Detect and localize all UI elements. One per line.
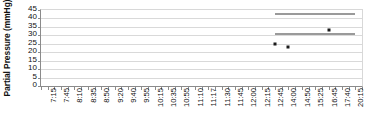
- x-axis-tick-label: 10:15: [157, 88, 165, 107]
- x-axis-tick-label: 11:17: [210, 88, 218, 106]
- x-axis-tick-label: 7:45: [63, 88, 71, 103]
- x-axis-tick-label: 11:45: [237, 88, 245, 106]
- x-axis-tick-label: 11:30: [224, 88, 232, 106]
- x-axis-tick-label: 11:10: [197, 88, 205, 106]
- x-axis-tick-label: 10:55: [183, 88, 191, 107]
- x-axis-tick-label: 8:35: [90, 88, 98, 103]
- gridline: [41, 18, 362, 19]
- y-axis-title-text: Partial Pressure (mmHg): [2, 0, 12, 96]
- gridline: [41, 78, 362, 79]
- x-axis-tick-labels: 7:157:458:108:358:509:209:409:5510:1510:…: [40, 88, 361, 135]
- gridline: [41, 44, 362, 45]
- y-axis-tick-mark: [38, 78, 41, 79]
- x-axis-tick-label: 9:55: [143, 88, 151, 103]
- x-axis-tick-label: 9:20: [117, 88, 125, 103]
- y-axis-tick-mark: [38, 18, 41, 19]
- x-axis-tick-label: 14:00: [290, 88, 298, 107]
- y-axis-tick-mark: [38, 69, 41, 70]
- y-axis-tick-mark: [38, 44, 41, 45]
- data-point: [274, 42, 277, 45]
- x-axis-tick-label: 14:50: [304, 88, 312, 107]
- x-axis-tick-label: 10:35: [170, 88, 178, 107]
- x-axis-tick-label: 8:10: [76, 88, 84, 103]
- plot-area: [40, 9, 363, 88]
- gridline: [41, 52, 362, 53]
- data-point: [327, 28, 330, 31]
- x-axis-tick-label: 16:45: [331, 88, 339, 107]
- gridline: [41, 69, 362, 70]
- y-axis-tick-labels: 454035302520151050: [14, 0, 40, 96]
- y-axis-tick-mark: [38, 10, 41, 11]
- x-axis-tick-label: 9:40: [130, 88, 138, 103]
- x-axis-tick-label: 15:25: [317, 88, 325, 107]
- chart-container: Partial Pressure (mmHg) 4540353025201510…: [0, 0, 384, 135]
- reference-line: [275, 33, 355, 35]
- gridline: [41, 61, 362, 62]
- y-axis-tick-mark: [38, 35, 41, 36]
- reference-line: [275, 13, 355, 15]
- y-axis-tick-mark: [38, 61, 41, 62]
- y-axis-tick-label: 0: [15, 81, 37, 89]
- y-axis-tick-mark: [38, 27, 41, 28]
- gridline: [41, 27, 362, 28]
- x-axis-tick-label: 12:45: [277, 88, 285, 107]
- x-axis-tick-label: 8:50: [103, 88, 111, 103]
- x-axis-tick-label: 17:40: [344, 88, 352, 107]
- y-axis-title: Partial Pressure (mmHg): [0, 0, 14, 96]
- y-axis-tick-mark: [38, 52, 41, 53]
- x-axis-tick-label: 12:00: [250, 88, 258, 107]
- data-point: [287, 45, 290, 48]
- x-axis-tick-label: 7:15: [50, 88, 58, 103]
- x-axis-tick-label: 12:15: [264, 88, 272, 107]
- x-axis-tick-label: 20:15: [357, 88, 365, 107]
